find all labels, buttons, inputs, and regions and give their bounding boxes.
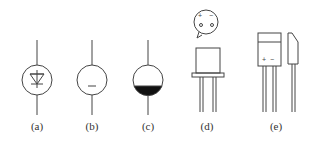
panel-a-symbol bbox=[22, 40, 52, 115]
label-d: (d) bbox=[201, 120, 214, 132]
panel-d-package bbox=[192, 10, 224, 112]
plus-mark: + bbox=[262, 56, 266, 63]
filled-segment-icon bbox=[134, 86, 162, 96]
panel-c-symbol bbox=[133, 40, 163, 115]
label-a: (a) bbox=[31, 120, 43, 132]
panel-e-package bbox=[258, 33, 298, 112]
label-b: (b) bbox=[86, 120, 99, 132]
panel-b-symbol bbox=[77, 40, 107, 115]
diode-icon bbox=[30, 70, 44, 88]
label-c: (c) bbox=[142, 120, 154, 132]
minus-mark: − bbox=[209, 12, 213, 19]
plus-mark: + bbox=[198, 12, 202, 19]
label-e: (e) bbox=[270, 120, 282, 132]
side-view bbox=[288, 33, 298, 64]
minus-mark: − bbox=[270, 56, 274, 63]
